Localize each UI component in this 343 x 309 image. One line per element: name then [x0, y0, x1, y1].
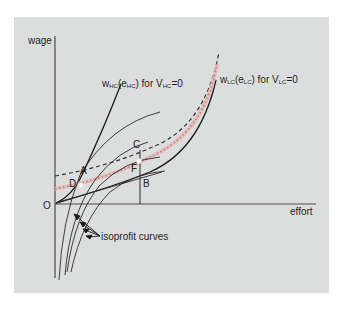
incentive-diagram: wage effort O wHC(eHC) for VHC=0 wLC(eLC…	[0, 0, 343, 309]
isoprofit-curve-4	[71, 171, 165, 272]
high-cost-curve-label: wHC(eHC) for VHC=0	[101, 78, 183, 89]
isoprofit-curve-1	[59, 112, 160, 280]
point-b-label: B	[143, 178, 150, 189]
y-axis-label: wage	[27, 35, 52, 46]
origin-label: O	[43, 200, 51, 211]
low-cost-curve-label: wLC(eLC) for VLC=0	[219, 74, 298, 85]
dashed-curve	[55, 52, 219, 176]
point-a-label: A	[80, 165, 87, 176]
point-d-label: D	[69, 178, 76, 189]
point-f-label: F	[131, 163, 137, 174]
point-f-dot	[136, 158, 141, 163]
point-d-dot	[78, 182, 83, 187]
isoprofit-label: isoprofit curves	[101, 231, 168, 242]
x-axis-label: effort	[290, 206, 313, 217]
point-c-label: C	[133, 139, 140, 150]
